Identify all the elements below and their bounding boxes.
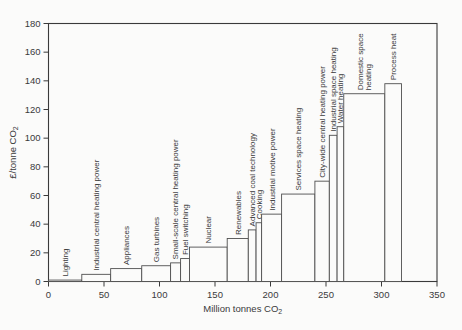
y-tick-label: 100 xyxy=(25,132,41,143)
abatement-cost-chart: 0204060801001201401601800501001502002503… xyxy=(0,0,462,330)
x-tick-label: 300 xyxy=(374,289,390,300)
bar-segment-8 xyxy=(248,230,256,282)
y-tick-label: 40 xyxy=(30,218,41,229)
x-tick-label: 150 xyxy=(207,289,223,300)
bar-label-10: Industrial motive power xyxy=(268,128,277,211)
bar-segment-2 xyxy=(111,269,142,282)
bar-segment-6 xyxy=(189,247,227,281)
bar-segment-16 xyxy=(385,84,402,282)
bar-segment-14 xyxy=(337,127,344,282)
y-tick-label: 140 xyxy=(25,75,41,86)
bar-segment-3 xyxy=(142,266,171,282)
bar-label-1: Industrial central heating power xyxy=(92,159,101,271)
bar-label-15: heating xyxy=(364,64,373,90)
bar-label-0: Lighting xyxy=(61,249,70,277)
bar-label-11: Services space heating xyxy=(294,108,303,191)
y-tick-label: 0 xyxy=(35,276,40,287)
bar-segment-10 xyxy=(262,214,282,281)
x-axis-title: Million tonnes CO2 xyxy=(203,303,282,315)
bar-label-3: Gas turbines xyxy=(152,217,161,262)
bar-segment-13 xyxy=(329,135,337,281)
x-tick-label: 200 xyxy=(263,289,279,300)
abatement-cost-chart-figure: 0204060801001201401601800501001502002503… xyxy=(0,0,462,330)
bar-segment-7 xyxy=(227,239,248,282)
x-tick-label: 0 xyxy=(46,289,51,300)
bar-label-2: Appliances xyxy=(122,226,131,265)
y-axis-title: £/tonne CO2 xyxy=(7,126,19,179)
bar-segment-4 xyxy=(171,263,181,282)
bar-segment-0 xyxy=(49,280,82,281)
bar-label-6: Nuclear xyxy=(204,216,213,244)
x-tick-label: 100 xyxy=(152,289,168,300)
y-tick-label: 180 xyxy=(25,18,41,29)
bar-segment-15 xyxy=(344,94,385,282)
bar-label-7: Renewables xyxy=(234,191,243,235)
bar-label-5: Fuel switching xyxy=(181,204,190,255)
bar-segment-9 xyxy=(256,223,262,282)
bar-label-16: Process heat xyxy=(389,33,398,80)
bar-segment-12 xyxy=(315,181,329,281)
bar-segment-11 xyxy=(282,194,315,281)
y-tick-label: 120 xyxy=(25,104,41,115)
y-tick-label: 60 xyxy=(30,190,41,201)
bar-label-12: City-wide central heating power xyxy=(318,66,327,178)
y-tick-label: 20 xyxy=(30,247,41,258)
bar-label-4: Small-scale central heating power xyxy=(171,139,180,259)
bar-segment-5 xyxy=(181,259,190,282)
y-tick-label: 160 xyxy=(25,46,41,57)
x-tick-label: 50 xyxy=(99,289,110,300)
bar-segment-1 xyxy=(82,274,111,281)
x-tick-label: 250 xyxy=(318,289,334,300)
y-tick-label: 80 xyxy=(30,161,41,172)
x-tick-label: 350 xyxy=(429,289,445,300)
